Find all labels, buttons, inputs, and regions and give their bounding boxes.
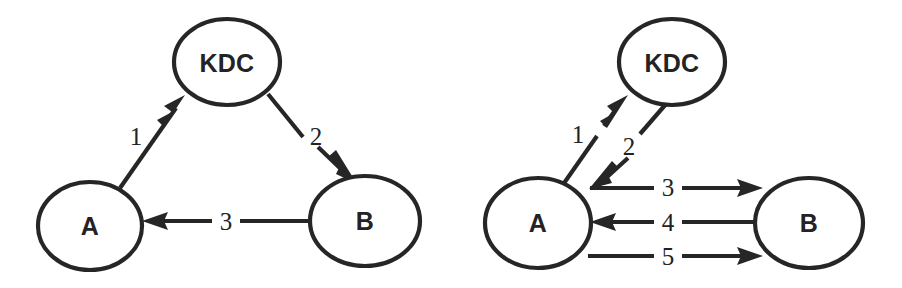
right-edge-2: 2 (589, 104, 666, 189)
left-node-b[interactable]: B (310, 176, 420, 266)
right-edge-2-label: 2 (623, 133, 636, 160)
left-edge-1-arrowhead (157, 95, 185, 127)
right-node-kdc-label: KDC (645, 49, 700, 77)
right-edge-4: 4 (590, 209, 757, 236)
left-node-a-label: A (81, 212, 99, 240)
right-edge-2-arrowhead (589, 161, 619, 189)
left-edge-1-label: 1 (130, 123, 143, 150)
right-diagram: 1 2 3 4 5 (485, 19, 863, 270)
left-node-kdc-label: KDC (200, 49, 255, 77)
left-edge-1: 1 (120, 95, 185, 188)
left-edge-3-label: 3 (220, 208, 233, 235)
right-edge-3-label: 3 (662, 174, 675, 201)
right-node-kdc[interactable]: KDC (619, 19, 725, 105)
right-edge-1-label: 1 (572, 121, 585, 148)
right-edge-1-arrowhead (600, 95, 628, 128)
left-node-a[interactable]: A (38, 182, 142, 270)
left-diagram: 1 2 3 KDC A B (38, 19, 420, 270)
right-edge-4-label: 4 (662, 209, 675, 236)
right-node-a[interactable]: A (485, 178, 591, 268)
left-edge-2-line (268, 94, 303, 137)
left-edge-3: 3 (142, 208, 310, 235)
right-node-b-label: B (800, 209, 818, 237)
left-node-kdc[interactable]: KDC (174, 19, 280, 105)
right-edge-5-label: 5 (662, 243, 675, 270)
right-node-a-label: A (529, 209, 547, 237)
right-node-b[interactable]: B (755, 178, 863, 268)
kdc-protocol-diagram: 1 2 3 KDC A B (0, 0, 902, 288)
right-edge-1: 1 (562, 95, 628, 186)
right-edge-5: 5 (588, 243, 763, 270)
right-edge-2-line-top (640, 104, 666, 134)
left-node-b-label: B (356, 207, 374, 235)
left-edge-2-label: 2 (310, 123, 323, 150)
right-edge-3: 3 (590, 174, 763, 201)
diagram-canvas: 1 2 3 KDC A B (0, 0, 902, 288)
left-edge-2: 2 (268, 94, 357, 184)
